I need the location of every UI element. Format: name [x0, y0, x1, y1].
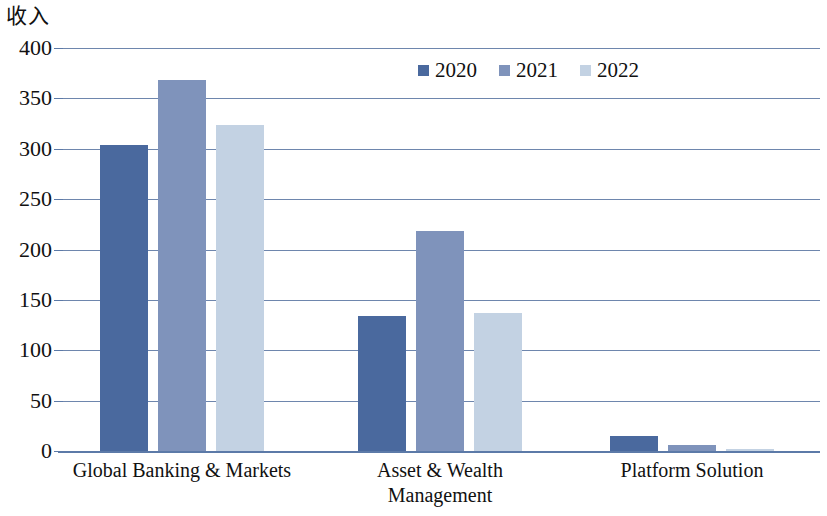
- y-axis-tick-label: 50: [2, 390, 52, 412]
- bar[interactable]: [358, 316, 406, 451]
- legend-swatch-icon: [499, 65, 510, 76]
- y-axis-tick-labels: 400350300250200150100500: [0, 48, 52, 451]
- y-axis-tick-mark: [54, 401, 63, 402]
- y-axis-title: 收入: [6, 4, 50, 28]
- y-axis-tick-label: 350: [2, 87, 52, 109]
- legend-item[interactable]: 2022: [580, 60, 639, 81]
- legend-swatch-icon: [418, 65, 429, 76]
- y-axis-tick-label: 400: [2, 37, 52, 59]
- legend-item[interactable]: 2021: [499, 60, 558, 81]
- legend-label: 2020: [435, 60, 477, 81]
- bar[interactable]: [100, 145, 148, 451]
- y-axis-tick-mark: [54, 199, 63, 200]
- gridline: [58, 48, 820, 49]
- y-axis-tick-label: 150: [2, 289, 52, 311]
- plot-area: [58, 48, 820, 451]
- bar[interactable]: [668, 445, 716, 451]
- bar-chart: 收入 400350300250200150100500 202020212022…: [0, 0, 827, 516]
- legend-swatch-icon: [580, 65, 591, 76]
- y-axis-tick-mark: [54, 149, 63, 150]
- bar[interactable]: [474, 313, 522, 451]
- axis-baseline: [58, 451, 820, 453]
- bar[interactable]: [158, 80, 206, 451]
- chart-legend: 202020212022: [418, 60, 639, 81]
- y-axis-tick-mark: [54, 451, 63, 452]
- legend-label: 2021: [516, 60, 558, 81]
- bar[interactable]: [726, 449, 774, 451]
- x-axis-category-label-line: Platform Solution: [532, 458, 827, 483]
- y-axis-tick-label: 200: [2, 239, 52, 261]
- y-axis-tick-mark: [54, 98, 63, 99]
- y-axis-tick-mark: [54, 350, 63, 351]
- x-axis-category-label: Platform Solution: [532, 458, 827, 483]
- x-axis-category-label-line: Management: [280, 483, 600, 508]
- y-axis-tick-mark: [54, 48, 63, 49]
- legend-label: 2022: [597, 60, 639, 81]
- y-axis-tick-label: 300: [2, 138, 52, 160]
- y-axis-tick-mark: [54, 300, 63, 301]
- bar[interactable]: [216, 125, 264, 451]
- bar[interactable]: [416, 231, 464, 451]
- y-axis-tick-label: 250: [2, 188, 52, 210]
- bar[interactable]: [610, 436, 658, 451]
- y-axis-tick-mark: [54, 250, 63, 251]
- y-axis-tick-label: 100: [2, 339, 52, 361]
- legend-item[interactable]: 2020: [418, 60, 477, 81]
